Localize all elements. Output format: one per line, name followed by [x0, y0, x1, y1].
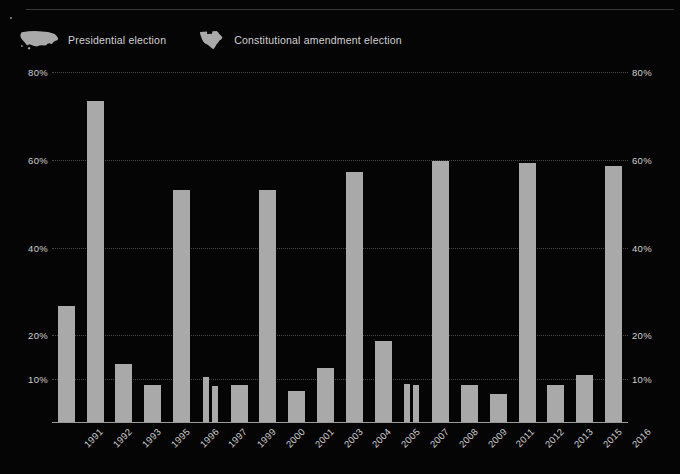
- x-axis-baseline: [52, 422, 628, 423]
- bar[interactable]: [404, 384, 410, 423]
- bar[interactable]: [605, 166, 622, 423]
- bar-group-1996[interactable]: [167, 72, 196, 423]
- bar[interactable]: [288, 391, 305, 423]
- bar-group-1997[interactable]: [196, 72, 225, 423]
- bar[interactable]: [413, 385, 419, 423]
- bar-group-1993[interactable]: [110, 72, 139, 423]
- bar-group-1992[interactable]: [81, 72, 110, 423]
- bar-group-2012[interactable]: [513, 72, 542, 423]
- x-axis-tick-label: 2004: [370, 426, 394, 450]
- y-axis-tick-label: 20%: [632, 330, 676, 341]
- x-axis-tick-label: 1996: [197, 426, 221, 450]
- x-axis-tick-label: 1997: [226, 426, 250, 450]
- bar-group-2005[interactable]: [369, 72, 398, 423]
- top-divider: [26, 9, 674, 10]
- bar[interactable]: [173, 190, 190, 423]
- bar-group-1995[interactable]: [138, 72, 167, 423]
- legend-label-presidential: Presidential election: [68, 34, 166, 46]
- x-axis-tick-label: 2016: [629, 426, 653, 450]
- bar-group-2007[interactable]: [398, 72, 427, 423]
- bar[interactable]: [259, 190, 276, 423]
- bar-group-2015[interactable]: [570, 72, 599, 423]
- y-axis-tick-label: 60%: [4, 154, 48, 165]
- bar-group-1991[interactable]: [52, 72, 81, 423]
- x-axis-tick-label: 1992: [111, 426, 135, 450]
- x-axis-tick-label: 1999: [255, 426, 279, 450]
- plot-area: [52, 72, 628, 423]
- bar-group-2001[interactable]: [282, 72, 311, 423]
- legend-item-amendment[interactable]: Constitutional amendment election: [196, 28, 402, 52]
- usa-map-icon: [18, 28, 60, 52]
- x-axis-tick-label: 2007: [428, 426, 452, 450]
- bar[interactable]: [87, 101, 104, 423]
- y-axis-left: 80%60%40%20%10%: [4, 72, 48, 423]
- y-axis-tick-label: 40%: [632, 242, 676, 253]
- y-axis-tick-label: 60%: [632, 154, 676, 165]
- y-axis-right: 80%60%40%20%10%: [632, 72, 676, 423]
- x-axis-tick-label: 2013: [572, 426, 596, 450]
- bar[interactable]: [346, 172, 363, 423]
- bar-group-2016[interactable]: [599, 72, 628, 423]
- bar[interactable]: [490, 394, 507, 423]
- bar-group-2011[interactable]: [484, 72, 513, 423]
- bar[interactable]: [576, 375, 593, 423]
- bar[interactable]: [547, 385, 564, 423]
- bar-group-2008[interactable]: [426, 72, 455, 423]
- bar-group-2009[interactable]: [455, 72, 484, 423]
- bar[interactable]: [231, 385, 248, 423]
- x-axis-tick-label: 2009: [485, 426, 509, 450]
- corner-marker: [10, 17, 12, 19]
- bar-group-1999[interactable]: [225, 72, 254, 423]
- x-axis-tick-label: 2011: [514, 426, 537, 449]
- bar-group-2003[interactable]: [311, 72, 340, 423]
- x-axis-tick-label: 2000: [284, 426, 308, 450]
- bar[interactable]: [115, 364, 132, 423]
- bar[interactable]: [432, 161, 449, 423]
- y-axis-tick-label: 80%: [632, 67, 676, 78]
- legend-item-presidential[interactable]: Presidential election: [18, 28, 166, 52]
- x-axis-tick-label: 2015: [600, 426, 624, 450]
- bar[interactable]: [212, 386, 218, 423]
- bar[interactable]: [58, 306, 75, 423]
- bar-group-2004[interactable]: [340, 72, 369, 423]
- bar[interactable]: [203, 377, 209, 423]
- x-axis-tick-label: 1995: [168, 426, 192, 450]
- y-axis-tick-label: 20%: [4, 330, 48, 341]
- y-axis-tick-label: 40%: [4, 242, 48, 253]
- bar[interactable]: [461, 385, 478, 423]
- y-axis-tick-label: 10%: [4, 374, 48, 385]
- bar-group-2000[interactable]: [254, 72, 283, 423]
- x-axis: 1991199219931995199619971999200020012003…: [52, 426, 628, 474]
- x-axis-tick-label: 2003: [341, 426, 365, 450]
- x-axis-tick-label: 1991: [82, 426, 106, 450]
- x-axis-tick-label: 2005: [399, 426, 423, 450]
- bar-group-2013[interactable]: [542, 72, 571, 423]
- x-axis-tick-label: 1993: [140, 426, 164, 450]
- chart-container: Presidential election Constitutional ame…: [0, 0, 680, 474]
- bar-series: [52, 72, 628, 423]
- y-axis-tick-label: 10%: [632, 374, 676, 385]
- bar[interactable]: [317, 368, 334, 423]
- y-axis-tick-label: 80%: [4, 67, 48, 78]
- x-axis-tick-label: 2012: [543, 426, 567, 450]
- x-axis-tick-label: 2001: [312, 426, 336, 450]
- chart-legend: Presidential election Constitutional ame…: [18, 27, 402, 53]
- bar[interactable]: [519, 163, 536, 423]
- bar[interactable]: [144, 385, 161, 423]
- texas-map-icon: [196, 28, 226, 52]
- legend-label-amendment: Constitutional amendment election: [234, 34, 402, 46]
- x-axis-tick-label: 2008: [456, 426, 480, 450]
- bar[interactable]: [375, 341, 392, 423]
